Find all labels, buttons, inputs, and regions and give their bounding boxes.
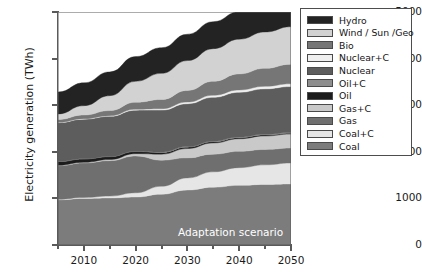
x-tick-label: 2040 <box>214 254 264 266</box>
legend-label: Gas+C <box>339 104 371 113</box>
stacked-area-series <box>58 12 291 245</box>
legend-swatch <box>307 16 333 24</box>
x-tick-mark <box>83 246 85 251</box>
legend-item[interactable]: Bio <box>307 39 411 52</box>
legend-label: Hydro <box>339 16 367 25</box>
x-tick-mark <box>186 246 188 251</box>
legend-item[interactable]: Hydro <box>307 14 411 27</box>
scenario-annotation: Adaptation scenario <box>178 226 283 238</box>
legend-item[interactable]: Wind / Sun /Geo <box>307 27 411 40</box>
legend-swatch <box>307 117 333 125</box>
legend-label: Nuclear+C <box>339 53 389 62</box>
y-axis-title: Electricity generation (TWh) <box>23 0 36 250</box>
x-tick-mark-minor <box>161 246 163 249</box>
x-tick-label: 2050 <box>266 254 316 266</box>
legend-swatch <box>307 142 333 150</box>
y-tick-label: 0 <box>376 238 422 250</box>
x-tick-mark-minor <box>109 246 111 249</box>
legend-swatch <box>307 41 333 49</box>
legend-swatch <box>307 79 333 87</box>
legend-item[interactable]: Gas+C <box>307 102 411 115</box>
legend-label: Gas <box>339 116 357 125</box>
plot-area <box>58 12 291 245</box>
legend-item[interactable]: Gas <box>307 115 411 128</box>
legend-item[interactable]: Oil+C <box>307 77 411 90</box>
x-tick-label: 2020 <box>111 254 161 266</box>
legend-label: Wind / Sun /Geo <box>339 28 414 37</box>
legend-box: HydroWind / Sun /GeoBioNuclear+CNuclearO… <box>300 8 412 156</box>
legend-label: Oil+C <box>339 79 366 88</box>
x-tick-mark-minor <box>212 246 214 249</box>
y-tick-label: 1000 <box>376 191 422 203</box>
x-tick-mark <box>135 246 137 251</box>
legend-item[interactable]: Coal <box>307 140 411 153</box>
legend-item[interactable]: Nuclear+C <box>307 52 411 65</box>
legend-item[interactable]: Nuclear <box>307 64 411 77</box>
legend-swatch <box>307 67 333 75</box>
chart-root: Electricity generation (TWh) 01000200030… <box>0 0 422 278</box>
legend-swatch <box>307 104 333 112</box>
legend-item[interactable]: Oil <box>307 90 411 103</box>
legend-label: Nuclear <box>339 66 375 75</box>
legend-label: Coal+C <box>339 129 374 138</box>
x-tick-label: 2030 <box>162 254 212 266</box>
legend-swatch <box>307 130 333 138</box>
x-tick-mark-minor <box>264 246 266 249</box>
legend-swatch <box>307 54 333 62</box>
legend-swatch <box>307 29 333 37</box>
legend-swatch <box>307 92 333 100</box>
legend-label: Oil <box>339 91 351 100</box>
legend-item[interactable]: Coal+C <box>307 127 411 140</box>
legend-label: Bio <box>339 41 354 50</box>
x-tick-mark <box>238 246 240 251</box>
legend-label: Coal <box>339 142 359 151</box>
x-tick-label: 2010 <box>59 254 109 266</box>
x-tick-mark-minor <box>57 246 59 249</box>
x-tick-mark <box>290 246 292 251</box>
